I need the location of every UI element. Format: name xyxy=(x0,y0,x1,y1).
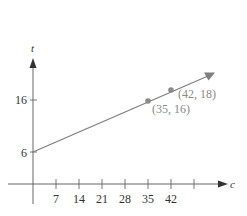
y-axis-label: t xyxy=(31,42,35,54)
x-axis-arrow-icon xyxy=(218,181,228,188)
y-tick-label: 16 xyxy=(15,93,27,107)
x-tick-label: 7 xyxy=(53,192,59,206)
data-point-42-18 xyxy=(168,87,174,93)
y-axis-arrow-icon xyxy=(30,58,37,68)
x-axis-label: c xyxy=(230,178,235,190)
x-tick-label: 14 xyxy=(73,192,85,206)
point-label-35-16: (35, 16) xyxy=(152,102,190,116)
x-tick-label: 42 xyxy=(165,192,177,206)
x-tick-label: 21 xyxy=(96,192,108,206)
y-tick-label: 6 xyxy=(21,146,27,160)
chart: c t 7 14 21 28 35 42 16 6 (35, 16) (42, … xyxy=(0,0,247,216)
x-tick-label: 35 xyxy=(142,192,154,206)
data-point-35-16 xyxy=(145,98,151,104)
point-label-42-18: (42, 18) xyxy=(178,87,216,101)
x-tick-label: 28 xyxy=(119,192,131,206)
